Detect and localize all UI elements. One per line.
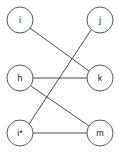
edge-j-i-star: [29, 30, 91, 124]
node-m[interactable]: m: [87, 120, 113, 146]
graph-diagram: i j h k i* m: [0, 0, 119, 157]
edge-h-m: [31, 86, 89, 126]
node-i-label: i: [19, 15, 21, 25]
node-k-label: k: [98, 73, 103, 83]
edge-layer: [29, 28, 91, 133]
node-h[interactable]: h: [7, 65, 33, 91]
node-j-label: j: [98, 15, 101, 25]
node-m-label: m: [96, 128, 104, 138]
node-k[interactable]: k: [87, 65, 113, 91]
node-i[interactable]: i: [7, 7, 33, 33]
node-i-star-label: i*: [17, 128, 23, 138]
node-h-label: h: [17, 73, 22, 83]
node-j[interactable]: j: [87, 7, 113, 33]
edge-i-k: [30, 28, 89, 71]
node-i-star[interactable]: i*: [7, 120, 33, 146]
